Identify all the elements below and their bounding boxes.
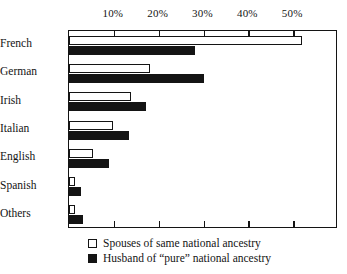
bar-spanish-series1 <box>69 177 75 186</box>
legend-item-2: Husband of “pure” national ancestry <box>88 251 271 266</box>
x-tick-label-20: 20% <box>147 7 168 19</box>
category-label-german: German <box>0 65 64 77</box>
legend-swatch-filled-icon <box>88 254 97 263</box>
bar-french-series1 <box>69 36 302 45</box>
bar-english-series2 <box>69 159 109 168</box>
bar-french-series2 <box>69 46 195 55</box>
legend-item-label: Spouses of same national ancestry <box>103 236 261 251</box>
bar-italian-series2 <box>69 131 129 140</box>
category-label-italian: Italian <box>0 122 64 134</box>
y-axis-category-labels: FrenchGermanIrishItalianEnglishSpanishOt… <box>4 30 64 228</box>
legend-item-label: Husband of “pure” national ancestry <box>103 251 271 266</box>
x-tick-label-10: 10% <box>102 7 123 19</box>
x-tick-label-30: 30% <box>192 7 213 19</box>
bar-german-series2 <box>69 74 204 83</box>
tick-mark-bottom <box>248 221 249 227</box>
plot-area <box>68 30 337 228</box>
category-label-spanish: Spanish <box>0 179 64 191</box>
category-label-irish: Irish <box>0 94 64 106</box>
category-label-others: Others <box>0 207 64 219</box>
x-tick-label-50: 50% <box>282 7 303 19</box>
bar-irish-series2 <box>69 102 146 111</box>
chart-legend: Spouses of same national ancestryHusband… <box>88 236 271 266</box>
tick-mark-bottom <box>204 221 205 227</box>
bar-spanish-series2 <box>69 187 81 196</box>
tick-mark-bottom <box>114 221 115 227</box>
legend-item-1: Spouses of same national ancestry <box>88 236 271 251</box>
category-label-english: English <box>0 150 64 162</box>
bar-others-series1 <box>69 205 75 214</box>
bar-german-series1 <box>69 64 150 73</box>
bar-irish-series1 <box>69 92 131 101</box>
tick-mark-bottom <box>159 221 160 227</box>
bar-chart: 10%20%30%40%50% FrenchGermanIrishItalian… <box>0 0 347 274</box>
legend-swatch-open-icon <box>88 239 97 248</box>
x-tick-label-40: 40% <box>237 7 258 19</box>
tick-mark-bottom <box>293 221 294 227</box>
bar-english-series1 <box>69 149 93 158</box>
bar-italian-series1 <box>69 121 113 130</box>
bar-others-series2 <box>69 215 83 224</box>
category-label-french: French <box>0 37 64 49</box>
